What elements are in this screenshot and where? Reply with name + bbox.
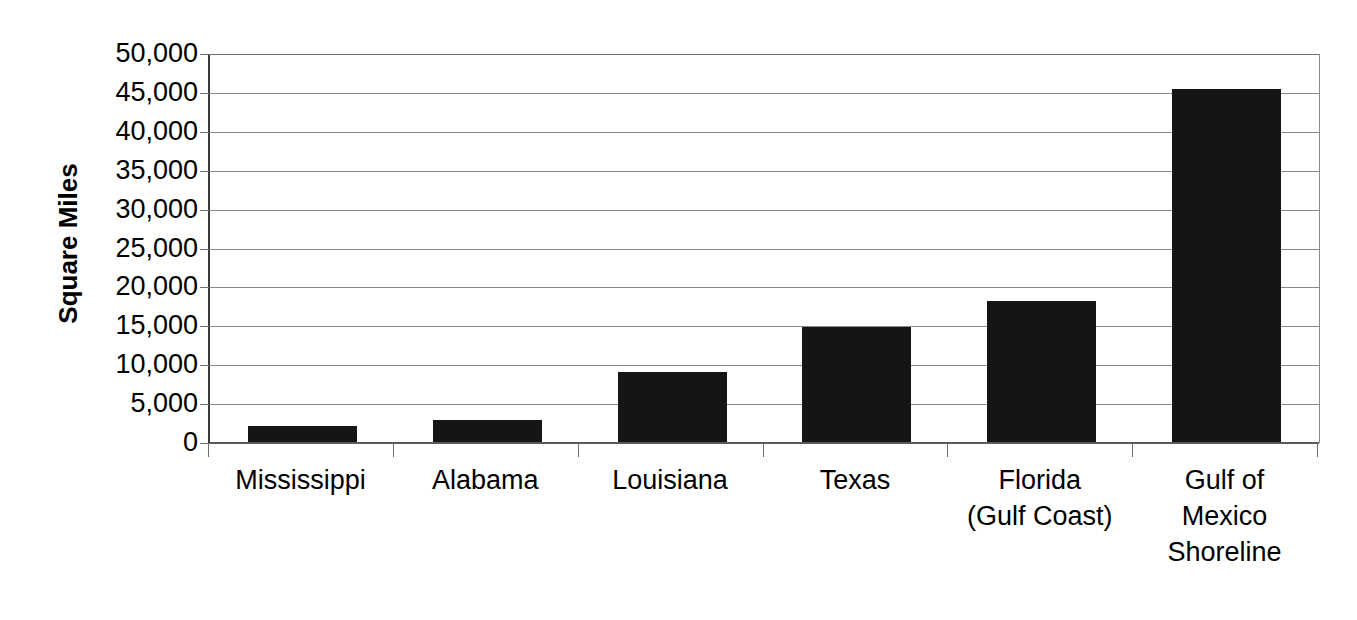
y-axis-tick-label: 30,000 xyxy=(86,196,198,223)
y-axis-tick-labels: 50,00045,00040,00035,00030,00025,00020,0… xyxy=(86,0,198,620)
category-tick xyxy=(1132,443,1133,457)
y-axis-tick-label: 5,000 xyxy=(86,390,198,417)
category-label: Florida (Gulf Coast) xyxy=(947,462,1132,534)
y-axis-tick-label: 35,000 xyxy=(86,157,198,184)
y-axis-tick xyxy=(200,132,210,133)
y-axis-tick xyxy=(200,54,210,55)
y-axis-tick xyxy=(200,249,210,250)
bar xyxy=(1172,89,1281,443)
y-axis-tick-label: 15,000 xyxy=(86,312,198,339)
bar-chart: Square Miles 50,00045,00040,00035,00030,… xyxy=(0,0,1357,620)
category-label: Mississippi xyxy=(208,462,393,498)
y-axis-tick-label: 10,000 xyxy=(86,351,198,378)
category-label: Gulf of Mexico Shoreline xyxy=(1132,462,1317,570)
bar xyxy=(433,420,542,443)
y-axis-tick-label: 45,000 xyxy=(86,79,198,106)
bar xyxy=(618,372,727,443)
bars xyxy=(210,54,1319,443)
category-tick xyxy=(1317,443,1318,457)
category-tick xyxy=(947,443,948,457)
y-axis-tick-label: 25,000 xyxy=(86,235,198,262)
category-label: Texas xyxy=(762,462,947,498)
category-tick xyxy=(578,443,579,457)
bar xyxy=(987,301,1096,443)
y-axis-tick-label: 40,000 xyxy=(86,118,198,145)
y-axis-tick-label: 0 xyxy=(86,429,198,456)
y-axis-tick xyxy=(200,404,210,405)
category-tick xyxy=(763,443,764,457)
category-tick xyxy=(393,443,394,457)
y-axis-tick xyxy=(200,365,210,366)
y-axis-title: Square Miles xyxy=(53,124,84,364)
bar xyxy=(802,327,911,443)
category-tick xyxy=(208,443,209,457)
plot-area xyxy=(208,54,1320,443)
x-axis-category-labels: MississippiAlabamaLouisianaTexasFlorida … xyxy=(208,462,1317,612)
y-axis-tick xyxy=(200,287,210,288)
y-axis-tick xyxy=(200,326,210,327)
y-axis-tick xyxy=(200,210,210,211)
category-label: Alabama xyxy=(393,462,578,498)
y-axis-tick xyxy=(200,171,210,172)
y-axis-tick-label: 20,000 xyxy=(86,273,198,300)
bar xyxy=(248,426,357,443)
category-label: Louisiana xyxy=(578,462,763,498)
y-axis-tick-label: 50,000 xyxy=(86,40,198,67)
y-axis-tick xyxy=(200,93,210,94)
category-tick-marks xyxy=(208,443,1319,457)
